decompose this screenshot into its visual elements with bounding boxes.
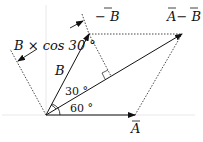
neg-b-dotted-line (10, 49, 46, 115)
neg-b-label: − B (95, 9, 120, 24)
right-dotted-line (135, 34, 182, 115)
top-left-dotted-line (82, 14, 89, 34)
angle-60-label: 60 ° (70, 102, 93, 115)
projection-label: B × cos 30 ° (13, 38, 96, 53)
projection-pointer-right (70, 21, 83, 28)
b-magnitude-label: B (54, 63, 65, 78)
angle-arc-60 (58, 108, 60, 115)
right-angle-mark (102, 70, 108, 79)
a-label: A (130, 121, 140, 136)
angle-30-label: 30 ° (65, 85, 88, 98)
a-minus-b-label: A− B (166, 9, 201, 24)
vector-diagram: B × cos 30 ° − B A− B B 30 ° 60 ° A (0, 0, 203, 142)
